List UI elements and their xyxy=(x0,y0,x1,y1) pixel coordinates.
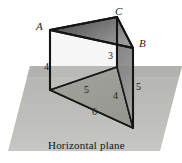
edge-label-3: 3 xyxy=(108,51,113,61)
geometry-figure: A C B 3 4 5 5 4 6 Horizontal plane xyxy=(0,0,182,163)
vertex-label-B: B xyxy=(139,38,146,49)
edge-label-5-base: 5 xyxy=(84,85,89,95)
edge-label-4-base: 4 xyxy=(113,91,118,101)
horizontal-plane-caption: Horizontal plane xyxy=(48,140,125,151)
edge-label-6-base: 6 xyxy=(92,107,97,117)
edge-label-4-left: 4 xyxy=(44,62,49,72)
vertex-label-C: C xyxy=(115,6,122,17)
vertex-label-A: A xyxy=(36,21,43,32)
edge-label-5-right: 5 xyxy=(136,82,141,92)
